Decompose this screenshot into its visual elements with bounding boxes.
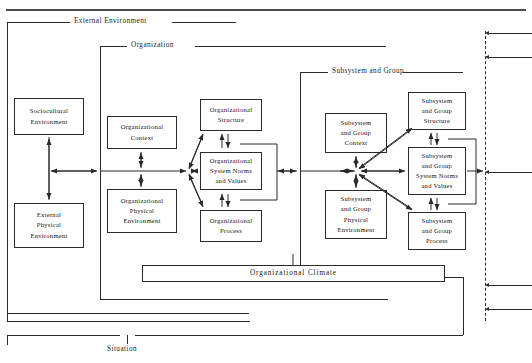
situation-label: Situation [107,345,137,353]
subsystem-frame-top-right [403,72,463,73]
node-subsystem-group-structure[interactable]: Subsystemand GroupStructure [408,92,466,130]
node-label: Subsystemand GroupContext [341,118,372,149]
node-organizational-system-norms-values[interactable]: OrganizationalSystem Normsand Values [200,152,262,190]
node-subsystem-group-context[interactable]: Subsystemand GroupContext [325,113,387,153]
mid-band-line [7,313,249,314]
inbound-arrow-5 [485,307,489,311]
situation-label-stem [127,335,128,344]
inbound-arrow-1 [485,31,489,35]
node-label: OrganizationalProcess [210,216,253,236]
node-label: Organizational Climate [250,268,337,279]
node-external-physical-environment[interactable]: ExternalPhysicalEnvironment [14,203,84,248]
node-organizational-structure[interactable]: OrganizationalStructure [200,99,262,131]
node-label: Subsystemand GroupStructure [422,96,453,127]
situation-frame-right [463,277,464,335]
diagram-canvas: External Environment Organization Subsys… [0,0,532,363]
external-frame-top-right [172,22,236,23]
inbound-line-4 [489,285,532,286]
organization-frame-bottom [100,299,388,300]
node-label: OrganizationalSystem Normsand Values [210,156,253,187]
situation-frame-top-left [7,335,120,336]
situation-frame-top-right [135,335,463,336]
external-frame-bottom [7,321,250,322]
inbound-arrow-4 [485,283,489,287]
situation-frame-left-tick [7,335,8,345]
subsystem-frame-left [300,72,301,277]
node-organizational-process[interactable]: OrganizationalProcess [200,210,262,242]
inbound-line-2 [489,57,532,58]
organization-frame-left [100,46,101,299]
node-organizational-context[interactable]: OrganizationalContext [107,116,177,149]
node-label: OrganizationalPhysicalEnvironment [121,196,164,227]
organization-label: Organization [131,41,174,49]
organization-frame-top-right [195,46,386,47]
inbound-arrow-2 [485,55,489,59]
node-label: OrganizationalContext [121,122,164,142]
dashed-boundary-line [485,31,486,321]
node-label: Subsystemand GroupPhysicalEnvironment [337,194,374,235]
node-label: ExternalPhysicalEnvironment [30,210,67,241]
node-sociocultural-environment[interactable]: SocioculturalEnvironment [14,98,84,135]
inbound-arrow-3 [485,170,489,174]
external-environment-label: External Environment [74,17,147,25]
node-label: SocioculturalEnvironment [30,106,68,126]
node-label: OrganizationalStructure [210,105,253,125]
node-subsystem-group-process[interactable]: Subsystemand GroupProcess [408,212,466,250]
organization-frame-top-left [100,46,127,47]
node-subsystem-group-system-norms-values[interactable]: Subsystemand GroupSystem Normsand Values [408,147,466,195]
inbound-line-1 [489,33,532,34]
node-organizational-climate[interactable]: Organizational Climate [142,265,445,282]
node-label: Subsystemand GroupProcess [422,216,453,247]
subsystem-group-label: Subsystem and Group [332,67,404,75]
subsystem-frame-top-left [300,72,328,73]
external-frame-left [7,22,8,321]
inbound-line-3 [489,172,532,173]
node-organizational-physical-environment[interactable]: OrganizationalPhysicalEnvironment [107,189,177,233]
node-subsystem-group-physical-environment[interactable]: Subsystemand GroupPhysicalEnvironment [325,190,387,239]
inbound-line-5 [489,309,532,310]
page-top-rule [6,9,526,11]
external-frame-top-left [7,22,70,23]
node-label: Subsystemand GroupSystem Normsand Values [416,151,458,192]
